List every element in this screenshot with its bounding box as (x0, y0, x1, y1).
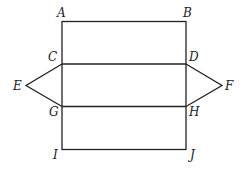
label-g: G (49, 105, 59, 119)
triangle-ceg (26, 64, 62, 107)
triangle-dfh (186, 64, 222, 107)
label-a: A (56, 6, 66, 20)
label-f: F (224, 79, 234, 93)
label-e: E (12, 79, 22, 93)
outer-rectangle (62, 22, 186, 150)
label-b: B (182, 6, 192, 20)
label-h: H (188, 105, 200, 119)
label-j: J (187, 148, 196, 162)
label-d: D (188, 50, 199, 64)
net-diagram: A B C D E F G H I J (0, 0, 249, 169)
label-i: I (52, 148, 58, 162)
label-c: C (48, 50, 57, 64)
